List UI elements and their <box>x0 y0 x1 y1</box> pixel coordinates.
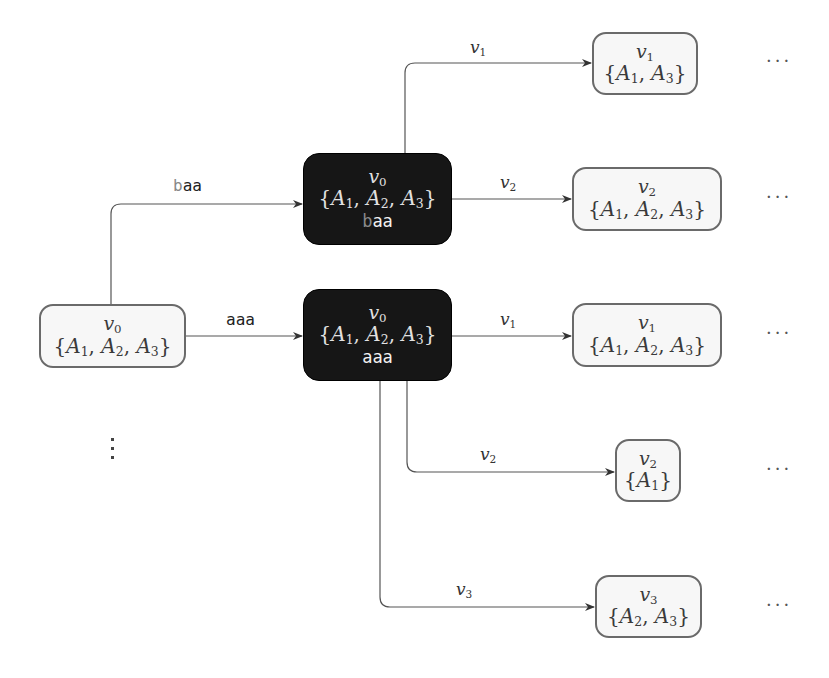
edge-aaa-to-leaf5 <box>380 380 594 607</box>
edge-baa-to-leaf1 <box>405 63 591 153</box>
node-leaf-2[interactable]: v2 {A1, A2, A3} <box>572 167 722 231</box>
edge-label-v2-mid: v2 <box>480 444 496 465</box>
node-var: v0 <box>103 314 121 335</box>
edge-label-v1-mid: v1 <box>500 309 516 330</box>
edge-label-baa: baa <box>173 176 202 195</box>
continuation-ellipsis: ··· <box>766 594 792 615</box>
node-root[interactable]: v0 {A1, A2, A3} <box>39 304 186 368</box>
node-dark-baa[interactable]: v0 {A1, A2, A3} baa <box>303 153 452 245</box>
node-leaf-1[interactable]: v1 {A1, A3} <box>592 32 698 95</box>
edge-aaa-to-leaf4 <box>407 380 614 472</box>
continuation-ellipsis: ··· <box>766 186 792 207</box>
edge-root-to-baa <box>111 204 302 304</box>
edge-label-v2-top: v2 <box>500 172 516 193</box>
continuation-ellipsis: ··· <box>766 50 792 71</box>
edge-label-v1-top: v1 <box>470 37 486 58</box>
node-set: {A1, A2, A3} <box>319 188 437 210</box>
node-var: v3 <box>639 585 657 606</box>
continuation-ellipsis: ··· <box>766 322 792 343</box>
node-set: {A2, A3} <box>607 606 690 628</box>
node-set: {A1, A2, A3} <box>319 324 437 346</box>
node-set: {A1} <box>624 470 672 492</box>
node-set: {A1, A2, A3} <box>54 336 172 358</box>
node-leaf-3[interactable]: v1 {A1, A2, A3} <box>572 303 722 367</box>
edge-label-aaa: aaa <box>226 310 255 329</box>
node-var: v2 <box>638 177 656 198</box>
node-dark-aaa[interactable]: v0 {A1, A2, A3} aaa <box>303 289 452 381</box>
edge-label-v3: v3 <box>456 579 472 600</box>
node-word: baa <box>362 213 393 231</box>
node-var: v0 <box>368 167 386 188</box>
node-var: v1 <box>636 42 654 63</box>
continuation-ellipsis: ··· <box>766 458 792 479</box>
node-var: v0 <box>368 303 386 324</box>
node-word: aaa <box>362 349 393 367</box>
node-set: {A1, A2, A3} <box>588 199 706 221</box>
node-set: {A1, A2, A3} <box>588 335 706 357</box>
vertical-ellipsis <box>107 438 117 459</box>
node-var: v1 <box>638 313 656 334</box>
node-leaf-5[interactable]: v3 {A2, A3} <box>595 575 702 638</box>
node-set: {A1, A3} <box>604 63 687 85</box>
node-leaf-4[interactable]: v2 {A1} <box>615 439 681 502</box>
node-var: v2 <box>639 449 657 470</box>
